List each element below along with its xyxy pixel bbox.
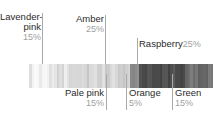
callout-green-value: 15% bbox=[175, 98, 220, 108]
callout-lavender-pink-value: 15% bbox=[0, 32, 41, 42]
bar-segment-lavender-pink bbox=[29, 64, 57, 88]
callout-green-label: Green bbox=[175, 88, 220, 98]
callout-green: Green 15% bbox=[175, 88, 220, 108]
callout-pale-pink-label: Pale pink bbox=[42, 88, 104, 98]
callout-orange: Orange 5% bbox=[129, 88, 169, 108]
leader-line-pale-pink bbox=[106, 74, 107, 110]
proportion-bar bbox=[29, 64, 213, 88]
callout-orange-value: 5% bbox=[129, 98, 169, 108]
leader-line-orange bbox=[126, 74, 127, 110]
leader-line-green bbox=[172, 74, 173, 110]
callout-pale-pink: Pale pink 15% bbox=[42, 88, 104, 108]
callout-raspberry-label: Raspberry bbox=[139, 38, 183, 49]
callout-amber-label: Amber bbox=[62, 14, 104, 24]
callout-amber-value: 25% bbox=[62, 24, 104, 34]
callout-lavender-pink-label-line2: pink bbox=[0, 22, 41, 32]
callout-orange-label: Orange bbox=[129, 88, 169, 98]
bar-segment-raspberry bbox=[139, 64, 185, 88]
bar-segment-pale-pink bbox=[57, 64, 85, 88]
callout-pale-pink-value: 15% bbox=[42, 98, 104, 108]
callout-amber: Amber 25% bbox=[62, 14, 104, 34]
bar-segment-green bbox=[185, 64, 213, 88]
bar-segment-amber bbox=[84, 64, 130, 88]
bar-stripe bbox=[211, 64, 213, 88]
bar-segment-orange bbox=[130, 64, 139, 88]
callout-raspberry: Raspberry25% bbox=[139, 37, 201, 49]
callout-raspberry-value: 25% bbox=[183, 39, 201, 49]
color-proportion-chart: Lavender- pink 15% Amber 25% Raspberry25… bbox=[0, 0, 224, 121]
callout-lavender-pink: Lavender- pink 15% bbox=[0, 12, 41, 42]
